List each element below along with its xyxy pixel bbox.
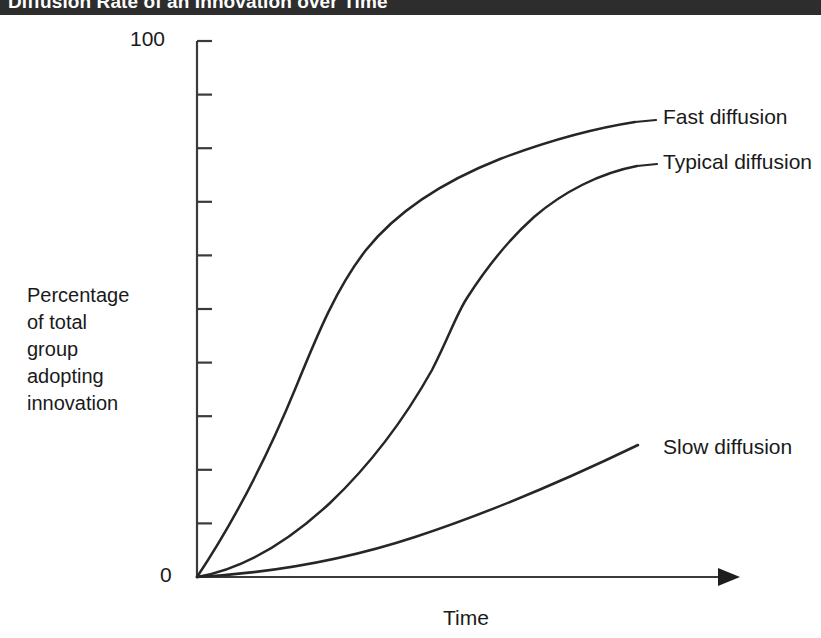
page-title: Diffusion Rate of an Innovation over Tim…	[8, 0, 388, 13]
y-axis-min-label: 0	[160, 563, 172, 587]
series-label-typical-diffusion: Typical diffusion	[663, 150, 812, 174]
curve-fast-diffusion	[197, 122, 635, 577]
series-label-fast-diffusion: Fast diffusion	[663, 105, 788, 129]
x-axis-title: Time	[443, 606, 489, 630]
series-leader-lines	[635, 120, 657, 166]
leader-line-typical	[637, 164, 657, 166]
chart-page: Diffusion Rate of an Innovation over Tim…	[0, 0, 821, 638]
y-axis-title-line-2: of total	[27, 309, 187, 336]
y-axis-max-label: 100	[130, 27, 165, 51]
curve-slow-diffusion	[197, 445, 638, 577]
title-bar: Diffusion Rate of an Innovation over Tim…	[0, 0, 821, 15]
curve-typical-diffusion	[197, 166, 637, 577]
y-axis-title-line-4: adopting	[27, 363, 187, 390]
leader-line-fast	[635, 120, 656, 122]
y-axis-title-line-1: Percentage	[27, 282, 187, 309]
y-axis-title-line-3: group	[27, 336, 187, 363]
y-axis-ticks	[197, 41, 212, 523]
figure-area: 100 0 Percentage of total group adopting…	[0, 15, 821, 638]
y-axis-title: Percentage of total group adopting innov…	[27, 282, 187, 417]
series-label-slow-diffusion: Slow diffusion	[663, 435, 792, 459]
arrow-right-icon	[718, 568, 740, 586]
y-axis-title-line-5: innovation	[27, 390, 187, 417]
